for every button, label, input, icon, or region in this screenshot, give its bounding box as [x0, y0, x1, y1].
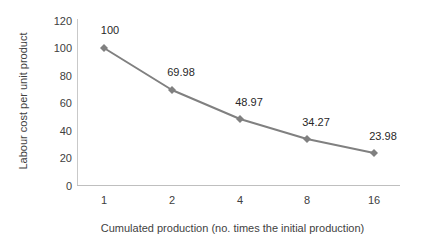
x-tick-label: 4 [237, 194, 243, 206]
x-axis-tick-labels: 1 2 4 8 16 [0, 194, 425, 210]
data-point-marker [370, 149, 378, 157]
x-tick-label: 8 [304, 194, 310, 206]
data-point-marker [236, 115, 244, 123]
data-label: 48.97 [235, 96, 263, 108]
x-tick-label: 16 [368, 194, 380, 206]
data-point-marker [303, 135, 311, 143]
data-label: 69.98 [167, 66, 195, 78]
data-label: 23.98 [369, 130, 397, 142]
data-label: 34.27 [302, 116, 330, 128]
x-tick-label: 2 [169, 194, 175, 206]
x-axis-title: Cumulated production (no. times the init… [40, 222, 425, 234]
data-label: 100 [101, 24, 119, 36]
x-tick-label: 1 [101, 194, 107, 206]
chart-container: Labour cost per unit product 120 100 80 … [0, 0, 425, 250]
series-plot [0, 0, 425, 250]
